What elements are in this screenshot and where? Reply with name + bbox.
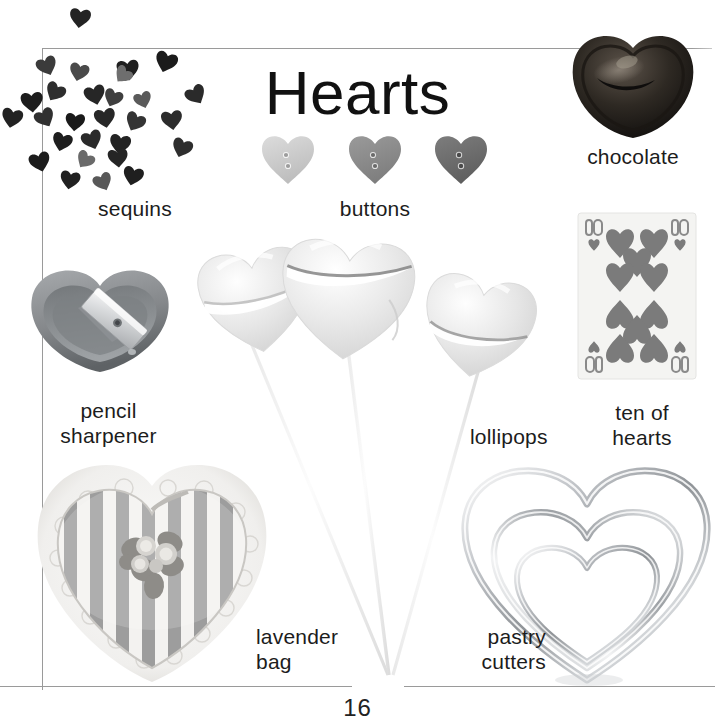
frame-rule-bottom-right [404,686,715,687]
caption-lollipops: lollipops [470,424,630,449]
caption-buttons: buttons [300,196,450,221]
page-number: 16 [0,694,715,722]
heart-sequins-icon [0,0,230,210]
chocolate-heart-icon [563,32,703,142]
lavender-bag-icon [28,466,278,686]
playing-card-icon [578,213,696,379]
caption-pastry-cutters: pastry cutters [400,624,546,674]
caption-chocolate: chocolate [558,144,708,169]
heart-buttons-icon [258,128,493,194]
caption-sequins: sequins [60,196,210,221]
heart-pencil-sharpener-icon [20,268,180,378]
frame-rule-bottom-left [0,686,352,687]
book-page: Hearts [0,0,715,728]
caption-pencil-sharpener: pencil sharpener [36,398,181,448]
